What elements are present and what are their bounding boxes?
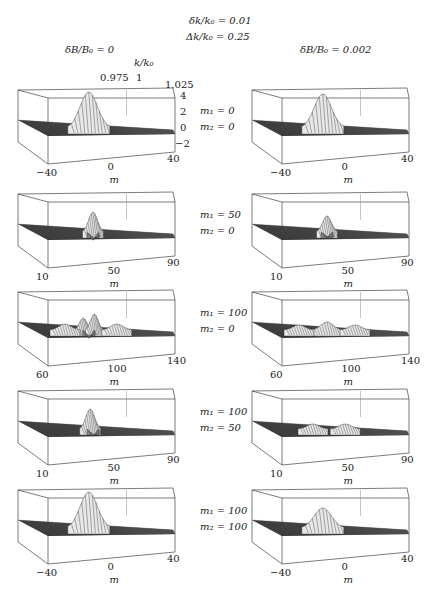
x-tick-3-0-0: 10	[36, 469, 49, 479]
z-tick-1: 2	[180, 107, 186, 117]
surface-peak	[330, 424, 360, 435]
x-tick-0-0-1: 0	[108, 162, 114, 172]
x-tick-1-1-2: 90	[401, 258, 414, 268]
y-tick-0: 0.975	[100, 73, 129, 83]
surface-peak	[302, 94, 344, 134]
x-tick-4-1-2: 40	[401, 554, 414, 564]
surface-peak	[340, 325, 370, 336]
x-tick-1-0-2: 90	[167, 258, 180, 268]
x-axis-label: m	[344, 175, 353, 185]
x-tick-3-1-2: 90	[401, 455, 414, 465]
x-axis-label: m	[110, 279, 119, 289]
x-axis-label: m	[110, 175, 119, 185]
x-tick-3-0-1: 50	[108, 463, 121, 473]
x-tick-2-1-0: 60	[270, 370, 283, 380]
x-tick-2-0-0: 60	[36, 370, 49, 380]
x-tick-0-1-2: 40	[401, 154, 414, 164]
x-axis-label: m	[344, 575, 353, 585]
y-tick-1: 1	[136, 73, 142, 83]
x-tick-3-1-1: 50	[342, 463, 355, 473]
x-tick-0-0-0: −40	[36, 168, 57, 178]
x-axis-label: m	[344, 377, 353, 387]
x-tick-0-1-1: 0	[342, 162, 348, 172]
x-tick-2-0-2: 140	[167, 356, 186, 366]
column-title-left: δB/B₀ = 0	[65, 45, 114, 55]
x-tick-2-1-2: 140	[401, 356, 420, 366]
x-axis-label: m	[344, 476, 353, 486]
x-tick-4-0-0: −40	[36, 568, 57, 578]
x-tick-3-0-2: 90	[167, 455, 180, 465]
x-tick-2-0-1: 100	[108, 364, 127, 374]
m1-label-2: m₁ = 100	[200, 308, 247, 318]
m2-label-2: m₂ = 0	[200, 324, 235, 334]
title-line-2: Δk/k₀ = 0.25	[186, 32, 250, 42]
x-tick-4-1-1: 0	[342, 562, 348, 572]
x-tick-3-1-0: 10	[270, 469, 283, 479]
m2-label-3: m₂ = 50	[200, 423, 241, 433]
y-tick-2: 1.025	[165, 80, 194, 90]
z-tick-0: 4	[180, 91, 186, 101]
x-axis-label: m	[344, 279, 353, 289]
x-tick-1-0-0: 10	[36, 272, 49, 282]
y-axis-label: k/k₀	[134, 58, 154, 68]
surface-peak	[317, 216, 338, 238]
x-axis-label: m	[110, 377, 119, 387]
z-tick-2: 0	[180, 123, 186, 133]
x-tick-4-0-1: 0	[108, 562, 114, 572]
m1-label-4: m₁ = 100	[200, 506, 247, 516]
x-tick-1-1-0: 10	[270, 272, 283, 282]
m2-label-4: m₂ = 100	[200, 522, 247, 532]
x-tick-4-0-2: 40	[167, 554, 180, 564]
x-tick-0-1-0: −40	[270, 168, 291, 178]
x-axis-label: m	[110, 476, 119, 486]
x-tick-0-0-2: 40	[167, 154, 180, 164]
m1-label-1: m₁ = 50	[200, 210, 241, 220]
m1-label-3: m₁ = 100	[200, 407, 247, 417]
x-tick-1-1-1: 50	[342, 266, 355, 276]
x-axis-label: m	[110, 575, 119, 585]
x-tick-4-1-0: −40	[270, 568, 291, 578]
m2-label-1: m₂ = 0	[200, 226, 235, 236]
surface-peak	[302, 508, 344, 534]
surface-peak	[83, 212, 104, 238]
z-tick-3: −2	[175, 139, 190, 149]
title-line-1: δk/k₀ = 0.01	[189, 16, 252, 26]
x-tick-2-1-1: 100	[342, 364, 361, 374]
m2-label-0: m₂ = 0	[200, 122, 235, 132]
column-title-right: δB/B₀ = 0.002	[300, 45, 371, 55]
surface-peak	[102, 324, 132, 336]
m1-label-0: m₁ = 0	[200, 106, 235, 116]
x-tick-1-0-1: 50	[108, 266, 121, 276]
